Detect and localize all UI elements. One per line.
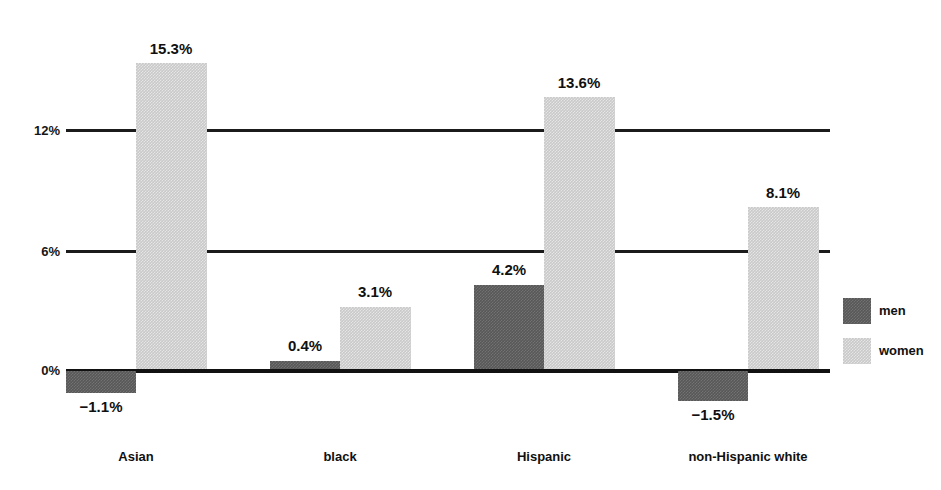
bar-label-asian-women: 15.3% bbox=[116, 41, 226, 57]
bar-label-hispanic-women: 13.6% bbox=[524, 75, 634, 91]
bar-chart: 12% 6% 0% −1.1% 15.3% 0.4% 3.1% 4.2% 13.… bbox=[0, 0, 941, 490]
y-tick-label-12: 12% bbox=[18, 124, 60, 137]
bar-asian-women[interactable] bbox=[136, 63, 207, 369]
legend: men women bbox=[843, 298, 938, 378]
x-category-label-black: black bbox=[260, 450, 420, 464]
legend-label-women: women bbox=[879, 344, 924, 358]
legend-swatch-women-icon bbox=[843, 338, 871, 364]
plot-area: 12% 6% 0% −1.1% 15.3% 0.4% 3.1% 4.2% 13.… bbox=[0, 0, 941, 440]
bar-hispanic-men[interactable] bbox=[474, 285, 544, 369]
bar-asian-men[interactable] bbox=[66, 371, 136, 393]
bar-hispanic-women[interactable] bbox=[544, 97, 615, 369]
legend-swatch-men-icon bbox=[843, 298, 871, 324]
bar-non-hispanic-white-women[interactable] bbox=[748, 207, 819, 369]
bar-label-asian-men: −1.1% bbox=[46, 399, 156, 415]
bar-label-non-hispanic-white-men: −1.5% bbox=[658, 407, 768, 423]
legend-item-women[interactable]: women bbox=[843, 338, 938, 378]
bar-black-women[interactable] bbox=[340, 307, 411, 369]
bar-non-hispanic-white-men[interactable] bbox=[678, 371, 748, 401]
y-tick-label-0: 0% bbox=[18, 364, 60, 377]
x-category-label-non-hispanic-white: non-Hispanic white bbox=[668, 450, 828, 464]
legend-item-men[interactable]: men bbox=[843, 298, 938, 338]
bar-label-black-women: 3.1% bbox=[320, 284, 430, 300]
bar-black-men[interactable] bbox=[270, 361, 340, 369]
x-category-label-hispanic: Hispanic bbox=[464, 450, 624, 464]
x-category-label-asian: Asian bbox=[56, 450, 216, 464]
legend-label-men: men bbox=[879, 304, 906, 318]
bar-label-non-hispanic-white-women: 8.1% bbox=[728, 185, 838, 201]
y-tick-label-6: 6% bbox=[18, 245, 60, 258]
